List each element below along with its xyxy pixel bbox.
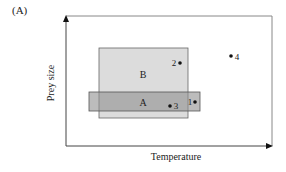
y-axis-title: Prey size <box>45 65 56 101</box>
point-4-label: 4 <box>235 52 240 62</box>
point-3-label: 3 <box>174 101 179 111</box>
point-4-marker-icon <box>229 54 233 58</box>
point-1-label: 1 <box>188 97 193 107</box>
point-2-marker-icon <box>178 61 182 65</box>
x-axis-title: Temperature <box>151 151 201 162</box>
diagram-canvas <box>0 0 286 172</box>
point-3-marker-icon <box>168 104 172 108</box>
point-1-marker-icon <box>193 100 197 104</box>
region-b-label: B <box>140 69 147 80</box>
point-2-label: 2 <box>172 58 177 68</box>
region-a-label: A <box>139 97 146 108</box>
